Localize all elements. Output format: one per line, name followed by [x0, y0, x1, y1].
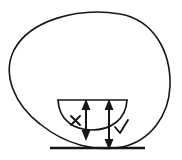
incorrect-height-arrow [82, 99, 91, 141]
incorrect-arrow-head-down [82, 130, 91, 141]
diagram-canvas: Blob resting on ground line with inscrib… [0, 0, 182, 160]
diagram-svg: Blob resting on ground line with inscrib… [0, 0, 182, 160]
cup-bowl-arc [58, 100, 127, 130]
cross-icon [71, 116, 80, 125]
outer-blob-outline [9, 12, 170, 148]
